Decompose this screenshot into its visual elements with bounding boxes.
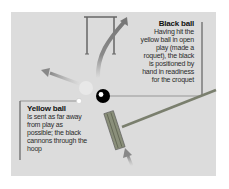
yellow-ball-description: Is sent as far away from play as possibl… [27,113,87,152]
black-ball-path-arrow [98,17,128,78]
black-ball-caption: Black ball Having hit the yellow ball in… [138,19,194,84]
yellow-ball-title: Yellow ball [27,104,89,113]
yellow-ball-caption: Yellow ball Is sent as far away from pla… [27,104,89,153]
croquet-diagram [0,0,229,189]
mallet-icon [104,90,216,150]
mallet-swing-arrow [123,148,132,166]
black-ball-title: Black ball [138,19,194,28]
yellow-ball [76,98,81,103]
yellow-ball-path-arrow [41,68,80,84]
black-ball [96,89,110,103]
black-ball-description: Having hit the yellow ball in open play … [141,28,194,83]
ghost-ball [79,81,93,95]
